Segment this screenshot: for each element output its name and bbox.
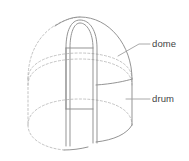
drum-base-rim-front-left-stub (64, 147, 88, 150)
hidden-lines-group (28, 17, 132, 150)
dome-leader-line (118, 44, 150, 56)
domed-drum-diagram: dome drum (0, 0, 189, 161)
drum-base-rim-hidden-ellipse (28, 99, 132, 125)
figure-container: dome drum (0, 0, 189, 161)
drum-base-front-hidden-left (28, 125, 64, 150)
callout-label-dome: dome (152, 38, 176, 49)
drum-top-inner-rim-hidden (28, 59, 132, 85)
callout-label-drum: drum (152, 93, 174, 104)
portal-arch-inner (70, 23, 93, 146)
visible-lines-group (55, 17, 132, 150)
drum-top-rim-hidden-ellipse (28, 53, 132, 79)
callout-leaders-group (118, 44, 150, 99)
drum-top-rim-front (96, 79, 132, 85)
drum-base-rim-front (96, 125, 132, 142)
